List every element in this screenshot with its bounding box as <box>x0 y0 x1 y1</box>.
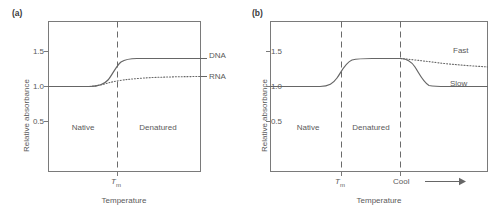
panel-b-tm-label: Tm <box>335 177 345 188</box>
figure-container: (a) Relative absorbance 1.5 1.0 0.5 DNA … <box>0 0 501 215</box>
panel-b-tm-m: m <box>340 182 345 188</box>
panel-a-tm-m: m <box>116 182 121 188</box>
panel-b-label-fast: Fast <box>453 46 469 55</box>
panel-a-label-rna: RNA <box>209 72 226 81</box>
panel-a-region-denatured: Denatured <box>128 123 188 132</box>
panel-a-axes-frame <box>49 22 201 172</box>
cool-arrow-icon <box>425 178 466 185</box>
panel-a-plot <box>0 0 250 215</box>
panel-b: (b) Relative absorbance 1.5 1.0 0.5 <box>250 0 501 215</box>
panel-b-region-denatured: Denatured <box>341 123 401 132</box>
panel-a-curve-dna <box>49 59 201 87</box>
panel-a-region-native: Native <box>58 123 108 132</box>
panel-a-tm-label: Tm <box>111 177 121 188</box>
panel-a-curve-rna <box>49 77 201 87</box>
panel-a-x-axis-title: Temperature <box>89 196 159 205</box>
panel-b-cool-label: Cool <box>393 177 409 186</box>
panel-a: (a) Relative absorbance 1.5 1.0 0.5 DNA … <box>0 0 250 215</box>
panel-b-x-axis-title: Temperature <box>344 196 414 205</box>
panel-b-axes-frame <box>271 22 488 172</box>
panel-a-label-dna: DNA <box>209 51 226 60</box>
panel-b-label-slow: Slow <box>450 79 467 88</box>
panel-b-region-native: Native <box>283 123 333 132</box>
panel-b-plot <box>250 0 501 215</box>
